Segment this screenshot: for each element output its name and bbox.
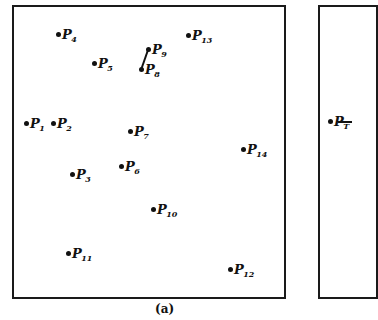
point-p4: P4 [56, 28, 77, 42]
point-pt: PT [328, 115, 349, 129]
point-marker-icon [139, 67, 144, 72]
point-subscript: 13 [201, 35, 212, 45]
point-p9: P9 [146, 43, 167, 57]
point-marker-icon [146, 47, 151, 52]
point-label: P [57, 116, 66, 131]
point-p5: P5 [92, 57, 113, 71]
point-subscript: 3 [85, 174, 91, 184]
point-marker-icon [56, 32, 61, 37]
point-p14: P14 [241, 143, 267, 157]
point-marker-icon [51, 121, 56, 126]
point-subscript: 6 [134, 166, 140, 176]
point-label: P [334, 114, 343, 129]
point-marker-icon [128, 129, 133, 134]
point-subscript: 14 [256, 149, 267, 159]
point-marker-icon [66, 251, 71, 256]
point-marker-icon [328, 119, 333, 124]
point-subscript: 5 [107, 63, 113, 73]
point-p1: P1 [24, 117, 45, 131]
point-p8: P8 [139, 63, 160, 77]
point-label: P [157, 202, 166, 217]
point-subscript: 11 [81, 253, 92, 263]
point-label: P [192, 28, 201, 43]
point-subscript: 1 [39, 123, 45, 133]
point-label: P [145, 62, 154, 77]
point-label: P [30, 116, 39, 131]
point-p2: P2 [51, 117, 72, 131]
point-p7: P7 [128, 125, 149, 139]
point-label: P [98, 56, 107, 71]
point-p10: P10 [151, 203, 177, 217]
point-subscript: 7 [143, 131, 149, 141]
point-p13: P13 [186, 29, 212, 43]
point-subscript: 4 [71, 34, 77, 44]
point-marker-icon [92, 61, 97, 66]
point-marker-icon [151, 207, 156, 212]
figure-caption: (a) [155, 302, 174, 316]
point-p3: P3 [70, 168, 91, 182]
point-subscript: 2 [66, 123, 72, 133]
point-marker-icon [241, 147, 246, 152]
point-subscript: T [343, 121, 349, 131]
point-p11: P11 [66, 247, 92, 261]
point-marker-icon [119, 164, 124, 169]
point-subscript: 10 [166, 209, 177, 219]
point-subscript: 8 [154, 69, 160, 79]
point-label: P [76, 167, 85, 182]
point-label: P [125, 159, 134, 174]
point-label: P [134, 124, 143, 139]
point-marker-icon [186, 33, 191, 38]
point-label: P [72, 246, 81, 261]
panel-b-frame [318, 5, 378, 299]
point-label: P [247, 142, 256, 157]
point-label: P [62, 27, 71, 42]
point-subscript: 9 [161, 49, 167, 59]
point-marker-icon [228, 267, 233, 272]
point-marker-icon [24, 121, 29, 126]
point-label: P [152, 42, 161, 57]
point-marker-icon [70, 172, 75, 177]
point-subscript: 12 [243, 269, 254, 279]
point-p6: P6 [119, 160, 140, 174]
point-label: P [234, 262, 243, 277]
point-p12: P12 [228, 263, 254, 277]
